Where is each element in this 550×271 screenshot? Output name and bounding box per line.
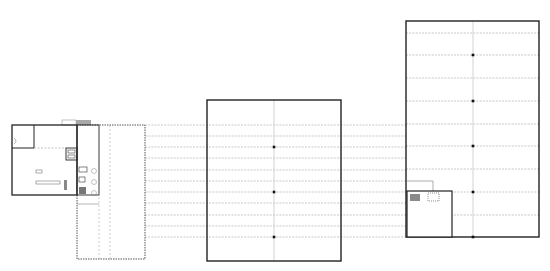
column-icon bbox=[472, 236, 475, 239]
floor-plan-diagram bbox=[0, 0, 550, 271]
column-icon bbox=[472, 54, 475, 57]
column-icon bbox=[273, 191, 276, 194]
wc-icon bbox=[79, 167, 87, 172]
column-icon bbox=[472, 145, 475, 148]
annex-core bbox=[77, 125, 99, 195]
column-marker-icon bbox=[92, 169, 97, 174]
roof-outline bbox=[62, 120, 76, 125]
inner-grid-lines bbox=[406, 33, 539, 215]
existing-building-plan bbox=[12, 120, 145, 259]
fixture bbox=[36, 170, 42, 173]
connector-lines bbox=[145, 125, 407, 237]
door-swing-icon bbox=[14, 138, 16, 144]
roof-accent bbox=[76, 120, 91, 125]
column-icon bbox=[472, 100, 475, 103]
column-icon bbox=[273, 236, 276, 239]
counter-fixture bbox=[36, 181, 60, 184]
large-hall-plan bbox=[406, 21, 539, 238]
annex-wall bbox=[77, 125, 145, 259]
stair-icon bbox=[79, 187, 86, 194]
stair-icon bbox=[64, 180, 67, 190]
stair-icon bbox=[410, 194, 420, 201]
column-icon bbox=[472, 191, 475, 194]
wc-icon bbox=[79, 177, 85, 182]
floor-plan-svg bbox=[0, 0, 550, 271]
column-icon bbox=[273, 146, 276, 149]
column-marker-icon bbox=[92, 180, 97, 185]
middle-hall-plan bbox=[207, 100, 341, 261]
wc-icon bbox=[68, 150, 75, 153]
wc-icon bbox=[68, 155, 75, 158]
